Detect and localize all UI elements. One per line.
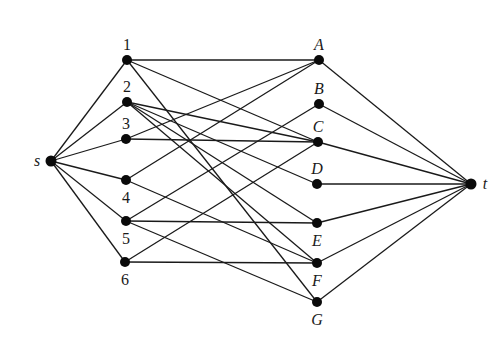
node-G	[312, 297, 322, 307]
node-label-E: E	[311, 232, 322, 249]
edge-A-t	[319, 60, 471, 184]
node-4	[121, 175, 131, 185]
edge-B-t	[319, 104, 471, 184]
node-B	[314, 99, 324, 109]
edge-2-F	[127, 102, 317, 263]
node-label-5: 5	[122, 230, 130, 247]
node-3	[121, 134, 131, 144]
node-label-D: D	[310, 160, 323, 177]
node-label-F: F	[311, 272, 322, 289]
node-label-1: 1	[123, 36, 131, 53]
edge-6-C	[125, 142, 318, 262]
node-label-6: 6	[121, 271, 129, 288]
node-label-A: A	[313, 36, 324, 53]
node-t	[466, 179, 477, 190]
node-label-B: B	[314, 80, 324, 97]
node-label-G: G	[311, 311, 323, 328]
node-label-t: t	[483, 175, 488, 192]
edge-5-G	[126, 221, 317, 302]
edge-C-t	[318, 142, 471, 184]
labels-layer: s123456ABCDEFGt	[34, 36, 488, 328]
node-F	[312, 258, 322, 268]
node-2	[122, 97, 132, 107]
node-5	[121, 216, 131, 226]
edge-3-C	[126, 139, 318, 142]
edge-s-3	[51, 139, 126, 161]
edge-F-t	[317, 184, 471, 263]
edge-2-D	[127, 102, 317, 184]
node-D	[312, 179, 322, 189]
node-C	[313, 137, 323, 147]
edges-layer	[51, 60, 471, 302]
node-label-2: 2	[123, 78, 131, 95]
node-label-4: 4	[122, 189, 130, 206]
nodes-layer	[46, 55, 477, 307]
node-label-3: 3	[122, 115, 130, 132]
edge-1-G	[127, 60, 317, 302]
node-6	[120, 257, 130, 267]
node-1	[122, 55, 132, 65]
edge-6-F	[125, 262, 317, 263]
edge-G-t	[317, 184, 471, 302]
node-A	[314, 55, 324, 65]
edge-E-t	[317, 184, 471, 223]
node-s	[46, 156, 57, 167]
node-E	[312, 218, 322, 228]
node-label-C: C	[313, 118, 324, 135]
flow-network-diagram: s123456ABCDEFGt	[0, 0, 503, 341]
node-label-s: s	[34, 152, 40, 169]
